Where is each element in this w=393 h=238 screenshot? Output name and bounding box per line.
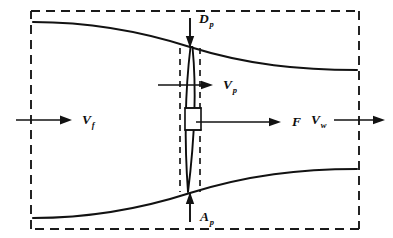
arrow-free-stream-velocity — [16, 116, 72, 125]
label-propeller-velocity: Vp — [223, 77, 237, 95]
thrust-arrow-head — [269, 118, 281, 126]
propeller-blade — [185, 47, 201, 192]
label-propeller-area: Ap — [199, 209, 214, 227]
label-thrust-force: F — [291, 114, 301, 129]
propeller-slipstream-diagram: Dp Ap Vf Vp F Vw — [0, 0, 393, 238]
upper-streamtube-curve — [33, 22, 357, 70]
propeller-hub — [185, 108, 201, 130]
label-wake-velocity: Vw — [311, 112, 327, 130]
propeller-velocity-arrow-head — [201, 81, 213, 89]
wake-arrow-head — [373, 116, 385, 124]
label-free-stream-velocity: Vf — [82, 112, 96, 130]
arrow-propeller-area — [186, 192, 194, 222]
arrow-thrust-force — [196, 118, 281, 126]
arrow-propeller-velocity — [158, 81, 213, 89]
label-propeller-diameter: Dp — [198, 11, 214, 29]
arrow-propeller-diameter — [186, 18, 194, 48]
figure-canvas: Dp Ap Vf Vp F Vw — [0, 0, 393, 238]
free-stream-arrow-head — [60, 116, 72, 125]
lower-streamtube-curve — [33, 169, 357, 218]
